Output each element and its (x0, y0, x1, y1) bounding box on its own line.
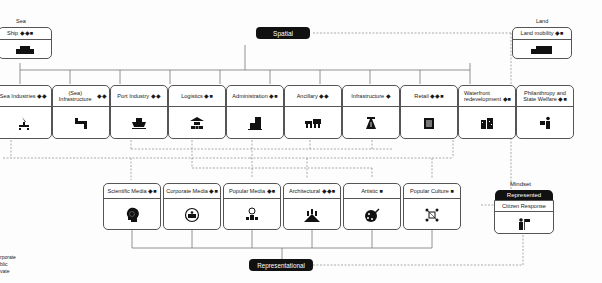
marks: ◆■ (267, 188, 275, 194)
card-title: Popular Media (229, 188, 265, 194)
card-header: Architectural ◆◆■ (284, 184, 340, 199)
card-ancillary: Ancillary ◆◆ (284, 85, 342, 139)
card-infrastructure: Infrastructure ◆ (342, 85, 400, 139)
card-header: Philanthropy and State Welfare ◆■ (517, 86, 573, 107)
marks: ◆■ (558, 96, 566, 102)
card-popular-media: Popular Media ◆■ (223, 183, 281, 230)
marks: ◆■ (269, 93, 277, 99)
card-header: Sea Industries ◆◆ (0, 86, 51, 107)
marks: ◆◆ (319, 93, 329, 99)
legend-item: rporate (0, 254, 16, 261)
card-popular-culture: Popular Culture ■ (403, 183, 461, 230)
brain-head-icon (104, 199, 160, 231)
card-header: Port Industry ◆◆ (111, 86, 167, 107)
card-title: Waterfront redevelopment (464, 90, 501, 102)
legend: rporate blic vate (0, 254, 16, 275)
card-header: Popular Culture ■ (404, 184, 460, 199)
card-waterfront-redevelopment: Waterfront redevelopment ◆■ (458, 85, 516, 139)
card-retail: Retail ◆◆■ (400, 85, 458, 139)
card-header: Scientific Media ◆■ (104, 184, 160, 199)
land-label: Land (536, 18, 548, 24)
card-title: Popular Culture (410, 188, 449, 194)
card-title: Ancillary (297, 93, 318, 99)
mindset-label: Mindset (510, 181, 531, 187)
card-header: Corporate Media ◆■ (164, 184, 220, 199)
warehouse-icon (169, 107, 225, 139)
card-header: Ship ◆◆■ (0, 28, 51, 40)
card-header: Administration ◆■ (227, 86, 283, 107)
card-citizen-response: Citizen Response (494, 200, 554, 234)
card-port-industry: Port Industry ◆◆ (110, 85, 168, 139)
card-title: Artistic (361, 188, 378, 194)
network-icon (404, 199, 460, 231)
legend-item: blic (0, 261, 16, 268)
card-administration: Administration ◆■ (226, 85, 284, 139)
marks: ◆◆ (97, 93, 107, 99)
card-corporate-media: Corporate Media ◆■ (163, 183, 221, 230)
marks: ◆◆ (37, 93, 47, 99)
marks: ◆■ (209, 188, 217, 194)
card-title: Retail (414, 93, 428, 99)
land-mobility-card: Land mobility ◆■ (512, 27, 572, 59)
card-logistics: Logistics ◆■ (168, 85, 226, 139)
person-flag-icon (495, 212, 553, 235)
card-title: Scientific Media (107, 188, 146, 194)
pipe-icon (53, 107, 109, 139)
card-title: (Sea) Infrastructure (55, 90, 95, 103)
card-header: Artistic ■ (344, 184, 400, 199)
cargo-ship-icon (111, 107, 167, 139)
card-architectural: Architectural ◆◆■ (283, 183, 341, 230)
skyline-icon (284, 199, 340, 231)
card-sea-infrastructure: (Sea) Infrastructure ◆◆ (52, 85, 110, 139)
card-sea-industries: Sea Industries ◆◆ (0, 85, 52, 139)
card-header: (Sea) Infrastructure ◆◆ (53, 86, 109, 107)
legend-item: vate (0, 268, 16, 275)
sea-label: Sea (16, 18, 26, 24)
card-title: Port Industry (117, 93, 149, 99)
marks: ■ (379, 188, 382, 194)
card-philanthropy-state-welfare: Philanthropy and State Welfare ◆■ (516, 85, 574, 139)
marks: ◆◆ (151, 93, 161, 99)
card-scientific-media: Scientific Media ◆■ (103, 183, 161, 230)
card-title: Land mobility (521, 30, 554, 36)
card-title: Sea Industries (0, 93, 36, 99)
card-title: Administration (232, 93, 267, 99)
card-artistic: Artistic ■ (343, 183, 401, 230)
store-icon (401, 107, 457, 139)
marks: ◆■ (555, 30, 563, 36)
highway-icon (343, 107, 399, 139)
card-header: Waterfront redevelopment ◆■ (459, 86, 515, 107)
group-circle-icon (164, 199, 220, 231)
sea-ship-card: Ship ◆◆■ (0, 27, 52, 59)
card-title: Architectural (289, 188, 320, 194)
marks: ◆◆■ (322, 188, 335, 194)
marks: ◆■ (503, 96, 511, 102)
card-title: Infrastructure (351, 93, 384, 99)
marks: ◆ (386, 93, 391, 99)
ship-icon (0, 40, 51, 60)
marks: ◆■ (204, 93, 212, 99)
card-header: Infrastructure ◆ (343, 86, 399, 107)
card-header: Retail ◆◆■ (401, 86, 457, 107)
oil-platform-icon (0, 107, 51, 139)
shops-icon (285, 107, 341, 139)
marks: ◆◆■ (430, 93, 443, 99)
card-title: Corporate Media (166, 188, 208, 194)
office-building-icon (227, 107, 283, 139)
globe-person-icon (224, 199, 280, 231)
marks: ◆◆■ (20, 30, 33, 36)
truck-icon (513, 40, 571, 60)
card-header: Land mobility ◆■ (513, 28, 571, 40)
marks: ■ (451, 188, 454, 194)
spatial-pill: Spatial (256, 27, 310, 39)
card-header: Ancillary ◆◆ (285, 86, 341, 107)
charity-icon (517, 107, 573, 139)
card-header: Logistics ◆■ (169, 86, 225, 107)
palette-icon (344, 199, 400, 231)
marks: ◆■ (148, 188, 156, 194)
card-title: Ship (7, 30, 18, 36)
apartments-icon (459, 107, 515, 139)
card-title: Logistics (181, 93, 203, 99)
card-header: Popular Media ◆■ (224, 184, 280, 199)
card-header: Citizen Response (495, 201, 553, 212)
